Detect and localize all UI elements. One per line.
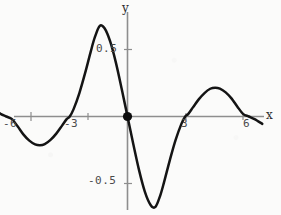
y-tick-label-minus-0-5: -0.5 (88, 174, 117, 187)
x-tick-label-3: 3 (181, 117, 188, 130)
y-axis-label: y (122, 1, 129, 15)
plot-figure: -6 -3 3 6 0.5 -0.5 x y (0, 0, 281, 215)
origin-point-marker (123, 112, 132, 121)
x-axis-label: x (266, 108, 273, 122)
x-tick-label-minus-3: -3 (64, 117, 78, 130)
y-tick-label-0-5: 0.5 (96, 42, 117, 55)
x-tick-label-minus-6: -6 (3, 117, 17, 130)
plot-canvas (0, 0, 281, 215)
x-tick-label-6: 6 (243, 117, 250, 130)
